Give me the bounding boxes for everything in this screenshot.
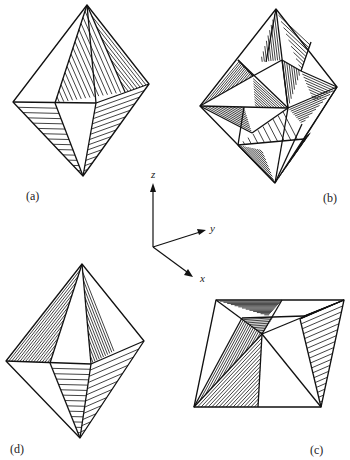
edge-line	[252, 108, 288, 133]
hatch-line	[209, 63, 241, 101]
hatch-line	[295, 106, 320, 117]
hatch-line	[253, 79, 285, 108]
edge-line	[300, 300, 344, 319]
panel-label-b: (b)	[323, 191, 337, 206]
hatch-line	[97, 27, 144, 86]
hatch-line	[222, 67, 244, 94]
hatch-line	[291, 46, 305, 59]
hatch-line	[18, 107, 57, 108]
x-axis-label: x	[200, 272, 205, 284]
hatch-line	[63, 395, 86, 396]
hatch-line	[257, 149, 264, 157]
edge-line	[82, 264, 91, 364]
hatch-line	[308, 342, 335, 354]
hatch-line	[28, 314, 66, 363]
hatch-line	[252, 148, 267, 163]
hatch-line	[52, 368, 90, 369]
hatch-line	[61, 390, 87, 391]
hatch-line	[315, 377, 327, 382]
edge-line	[87, 5, 125, 92]
hatch-line	[309, 348, 333, 359]
hatch-line	[233, 379, 259, 407]
hatch-line	[39, 338, 58, 362]
hatch-line	[25, 307, 68, 362]
hatch-line	[253, 134, 258, 143]
hatch-line	[42, 344, 56, 362]
octahedron-a	[13, 5, 149, 176]
edge-line	[275, 124, 302, 183]
hatch-line	[222, 366, 260, 407]
edge-line	[301, 71, 337, 87]
hatch-line	[287, 63, 292, 99]
hatch-line	[296, 109, 316, 117]
hatch-line	[28, 118, 61, 119]
hatch-line	[218, 65, 243, 96]
hatch-line	[250, 323, 269, 324]
edge-line	[55, 5, 87, 103]
hatch-line	[289, 64, 293, 94]
edge-line	[253, 60, 282, 76]
hatch-line	[63, 79, 73, 101]
hatch-line	[248, 138, 251, 144]
panel-label-a: (a)	[26, 189, 39, 204]
hatch-line	[243, 146, 273, 176]
hatch-line	[48, 139, 69, 140]
hatch-line	[14, 283, 76, 362]
hatch-line	[254, 92, 272, 108]
hatch-line	[250, 148, 269, 167]
hatch-line	[81, 23, 112, 94]
panel-label-c: (c)	[310, 443, 323, 458]
hatch-line	[255, 102, 261, 107]
hatch-line	[306, 330, 338, 344]
hatch-line	[316, 383, 326, 387]
hatch-line	[38, 128, 65, 129]
hatch-line	[273, 20, 278, 61]
hatch-line	[246, 320, 272, 322]
hatch-line	[65, 72, 77, 99]
y-axis-arrow	[153, 232, 200, 247]
octahedron-c	[194, 300, 344, 407]
edge-line	[83, 103, 96, 176]
z-axis-label: z	[151, 168, 155, 180]
hatch-line	[213, 64, 242, 99]
hatch-line	[260, 150, 264, 154]
z-arrowhead-icon	[150, 183, 156, 192]
hatch-line	[307, 336, 336, 349]
hatch-line	[252, 325, 268, 326]
hatch-line	[294, 67, 296, 85]
outline	[13, 5, 149, 176]
hatch-line	[54, 374, 89, 375]
y-arrowhead-icon	[197, 229, 206, 235]
hatch-line	[43, 134, 67, 135]
hatch-line	[251, 399, 259, 407]
x-axis-arrow	[153, 247, 187, 272]
edge-line	[238, 60, 288, 108]
hatch-line	[237, 383, 260, 407]
hatch-line	[314, 371, 329, 377]
hatch-line	[59, 91, 64, 102]
y-axis-label: y	[210, 222, 215, 234]
outline	[6, 264, 144, 438]
octahedron-d	[6, 264, 144, 438]
hatch-line	[198, 338, 262, 407]
edge-line	[200, 76, 253, 106]
hatch-line	[296, 68, 298, 80]
hatch-line	[258, 130, 264, 142]
hatch-line	[56, 379, 88, 380]
hatch-line	[306, 83, 328, 93]
hatch-line	[59, 384, 88, 385]
hatch-line	[263, 127, 271, 143]
hatch-line	[20, 295, 72, 362]
hatch-line	[281, 21, 309, 47]
hatch-line	[84, 289, 110, 354]
hatch-line	[262, 57, 263, 62]
hatch-line	[94, 97, 139, 113]
hatch-line	[79, 30, 108, 95]
hatch-line	[301, 120, 306, 122]
hatch-line	[69, 60, 86, 98]
hatch-line	[231, 69, 247, 88]
hatch-line	[33, 123, 63, 124]
hatch-line	[291, 94, 330, 111]
hatch-line	[226, 371, 260, 408]
hatch-line	[312, 359, 332, 367]
